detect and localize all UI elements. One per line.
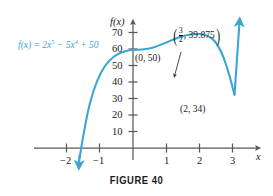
figure-caption: FIGURE 40 <box>19 174 254 186</box>
y-tick-label-10: 10 <box>112 127 123 138</box>
x-tick-label-neg1: −1 <box>93 156 104 167</box>
x-tick-label-3: 3 <box>230 156 235 167</box>
x-axis-label: x <box>256 152 261 163</box>
fraction-denominator: 2 <box>179 35 183 44</box>
y-intercept-label: (0, 50) <box>135 54 160 64</box>
leader-line-inflection <box>175 52 182 76</box>
equation-prefix: f(x) = 2x <box>18 40 51 50</box>
inflection-y-value: , 39.875 <box>183 31 214 41</box>
y-tick-label-30: 30 <box>112 94 123 105</box>
left-paren: ( <box>173 29 177 43</box>
graph-plot <box>0 0 273 196</box>
y-axis-label: f(x) <box>110 17 125 28</box>
y-tick-label-40: 40 <box>112 77 123 88</box>
fraction-numerator: 3 <box>179 27 183 35</box>
y-tick-label-60: 60 <box>112 44 123 55</box>
figure-container: f(x) x 10 20 30 40 50 60 70 −2 −1 1 2 3 … <box>0 0 273 196</box>
y-tick-label-50: 50 <box>112 61 123 72</box>
x-tick-label-1: 1 <box>164 156 169 167</box>
curve-arrow-down <box>79 155 80 165</box>
y-tick-label-20: 20 <box>112 110 123 121</box>
inflection-point-label: (32, 39.875) <box>172 27 221 45</box>
equation-label: f(x) = 2x5 − 5x4 + 50 <box>18 39 99 51</box>
equation-middle: − 5x <box>55 40 75 50</box>
x-tick-label-neg2: −2 <box>60 156 71 167</box>
y-tick-label-70: 70 <box>112 28 123 39</box>
right-paren: ) <box>216 29 220 43</box>
equation-suffix: + 50 <box>78 40 99 50</box>
local-min-label: (2, 34) <box>180 105 205 115</box>
curve-arrow-up <box>235 22 240 95</box>
x-tick-label-2: 2 <box>197 156 202 167</box>
